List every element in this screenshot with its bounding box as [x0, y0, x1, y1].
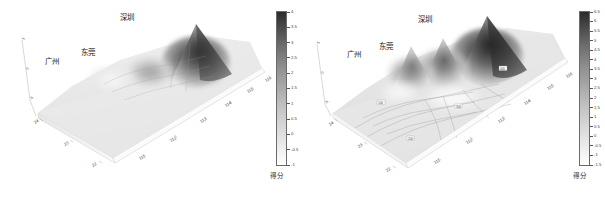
colorbar-tick-label: 0: [291, 132, 293, 136]
colorbar-tick-label: -1: [291, 163, 295, 167]
svg-text:22: 22: [91, 161, 98, 168]
svg-text:23: 23: [63, 140, 70, 147]
colorbar-tick-dash: [287, 12, 290, 13]
colorbar-tick-label: 1.5: [291, 86, 297, 90]
colorbar-tick-dash: [590, 88, 593, 89]
svg-text:112: 112: [169, 135, 178, 143]
left-colorbar-ticks: 43.532.521.510.50-0.5-1: [287, 11, 302, 166]
colorbar-tick-dash: [287, 134, 290, 135]
svg-text:22: 22: [385, 166, 392, 173]
city-label-dongguan: 东莞: [81, 46, 95, 57]
colorbar-tick-dash: [287, 57, 290, 58]
colorbar-tick-label: 6: [594, 19, 596, 23]
colorbar-tick-label: 5: [594, 39, 596, 43]
colorbar-tick-label: 4.5: [594, 48, 600, 52]
colorbar-tick-label: -0.5: [594, 144, 601, 148]
colorbar-tick-dash: [590, 117, 593, 118]
svg-text:5: 5: [316, 41, 320, 45]
svg-text:113: 113: [497, 116, 506, 124]
colorbar-tick-dash: [590, 50, 593, 51]
colorbar-tick-dash: [590, 40, 593, 41]
colorbar-tick-label: 3: [594, 77, 596, 81]
svg-text:114: 114: [224, 100, 233, 108]
colorbar-tick-label: -0.5: [291, 148, 298, 152]
left-figure-panel: 5 0 -5 24 23 22 111 112 113 114 115: [0, 0, 302, 198]
colorbar-tick-dash: [590, 21, 593, 22]
colorbar-tick-label: 6.5: [594, 10, 600, 14]
colorbar-tick-label: 5.5: [594, 29, 600, 33]
svg-text:100: 100: [378, 101, 383, 105]
svg-text:400: 400: [500, 67, 505, 71]
colorbar-tick-label: 4: [594, 58, 596, 62]
svg-text:200: 200: [408, 137, 413, 141]
svg-text:113: 113: [199, 116, 208, 124]
colorbar-tick-dash: [590, 107, 593, 108]
colorbar-tick-label: 0.5: [594, 125, 600, 129]
right-colorbar: 6.565.554.543.532.521.510.50-0.5-1-1.5 得…: [571, 0, 605, 198]
colorbar-tick-dash: [590, 31, 593, 32]
colorbar-tick-label: 2: [291, 71, 293, 75]
city-label-shenzhen: 深圳: [120, 11, 134, 22]
city-label-guangzhou: 广州: [347, 48, 361, 59]
colorbar-tick-label: 1: [291, 102, 293, 106]
colorbar-tick-dash: [590, 136, 593, 137]
colorbar-tick-dash: [590, 12, 593, 13]
svg-text:0: 0: [25, 67, 29, 71]
colorbar-tick-label: 1: [594, 115, 596, 119]
colorbar-tick-dash: [590, 59, 593, 60]
colorbar-tick-label: -1: [594, 153, 598, 157]
left-plot-area: 5 0 -5 24 23 22 111 112 113 114 115: [0, 0, 272, 198]
svg-text:111: 111: [433, 157, 442, 165]
colorbar-tick-dash: [590, 69, 593, 70]
right-colorbar-title: 得分: [573, 170, 587, 180]
colorbar-tick-label: 2.5: [291, 56, 297, 60]
colorbar-tick-dash: [590, 165, 593, 166]
svg-text:-5: -5: [29, 96, 34, 101]
colorbar-tick-label: 4: [291, 10, 293, 14]
right-figure-panel: 100 200 300 400 5 0 -5 24 23: [303, 0, 605, 198]
colorbar-tick-dash: [287, 73, 290, 74]
colorbar-tick-label: 3.5: [291, 25, 297, 29]
left-surface-svg: 5 0 -5 24 23 22 111 112 113 114 115: [0, 0, 272, 198]
svg-text:5: 5: [21, 37, 25, 41]
colorbar-tick-label: 2.5: [594, 86, 600, 90]
left-colorbar-gradient: [276, 11, 287, 166]
colorbar-tick-label: 1.5: [594, 106, 600, 110]
colorbar-tick-label: 0: [594, 134, 596, 138]
svg-text:300: 300: [456, 105, 461, 109]
right-colorbar-gradient: [579, 11, 590, 166]
svg-text:114: 114: [523, 98, 532, 106]
svg-text:115: 115: [546, 83, 555, 91]
left-colorbar: 43.532.521.510.50-0.5-1 得分: [268, 0, 302, 198]
colorbar-tick-dash: [287, 27, 290, 28]
colorbar-tick-label: 2: [594, 96, 596, 100]
right-surface-svg: 100 200 300 400 5 0 -5 24 23: [303, 0, 575, 198]
svg-text:23: 23: [357, 142, 364, 149]
colorbar-tick-dash: [590, 78, 593, 79]
svg-text:24: 24: [328, 120, 335, 127]
colorbar-tick-label: 0.5: [291, 117, 297, 121]
colorbar-tick-dash: [287, 88, 290, 89]
left-colorbar-title: 得分: [270, 170, 284, 180]
colorbar-tick-label: 3.5: [594, 67, 600, 71]
svg-text:112: 112: [465, 137, 474, 145]
right-colorbar-ticks: 6.565.554.543.532.521.510.50-0.5-1-1.5: [590, 11, 605, 166]
colorbar-tick-label: -1.5: [594, 163, 601, 167]
city-label-guangzhou: 广州: [45, 55, 59, 66]
colorbar-tick-dash: [590, 155, 593, 156]
colorbar-tick-dash: [287, 165, 290, 166]
svg-text:-5: -5: [324, 100, 329, 105]
colorbar-tick-label: 3: [291, 41, 293, 45]
colorbar-tick-dash: [287, 103, 290, 104]
svg-text:111: 111: [138, 153, 147, 161]
colorbar-tick-dash: [590, 98, 593, 99]
city-label-dongguan: 东莞: [379, 40, 393, 51]
right-plot-area: 100 200 300 400 5 0 -5 24 23: [303, 0, 575, 198]
colorbar-tick-dash: [287, 42, 290, 43]
colorbar-tick-dash: [287, 149, 290, 150]
svg-text:0: 0: [320, 71, 324, 75]
colorbar-tick-dash: [590, 126, 593, 127]
city-label-shenzhen: 深圳: [418, 13, 432, 24]
colorbar-tick-dash: [287, 119, 290, 120]
colorbar-tick-dash: [590, 145, 593, 146]
